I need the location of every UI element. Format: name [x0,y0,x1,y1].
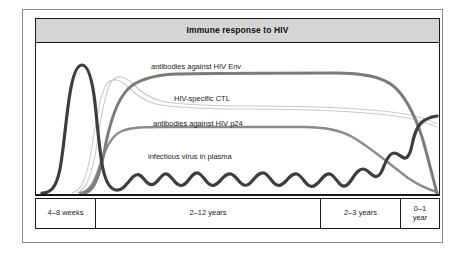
curve-p24 [80,127,437,193]
immune-response-figure: Immune response to HIV antibodies agains… [0,0,468,258]
curve-label-p24: antibodies against HIV p24 [153,120,243,128]
time-axis-row: 4–8 weeks 2–12 years 2–3 years 0–1year [35,198,440,229]
axis-segment-acute: 4–8 weeks [36,199,96,228]
curve-label-virus: infectious virus in plasma [148,153,232,161]
axis-segment-asymptomatic: 2–12 years [96,199,321,228]
curve-label-env: antibodies against HIV Env [151,63,241,71]
curve-virus [42,65,437,193]
curve-label-ctl: HIV-specific CTL [174,95,230,103]
axis-segment-terminal: 0–1year [401,199,439,228]
plot-area: antibodies against HIV Env HIV-specific … [35,43,440,196]
page-title: Immune response to HIV [187,26,289,35]
axis-segment-symptomatic: 2–3 years [321,199,401,228]
figure-title-band: Immune response to HIV [35,18,440,43]
curve-ctl [72,77,437,193]
